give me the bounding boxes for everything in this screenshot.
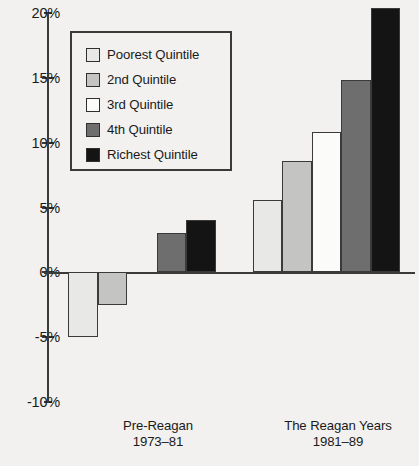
- bar-pre-reagan-5: [186, 220, 216, 272]
- legend-item-3: 3rd Quintile: [86, 92, 230, 117]
- category-label-reagan-years: The Reagan Years1981–89: [268, 418, 408, 450]
- bar-pre-reagan-4: [157, 233, 187, 272]
- legend-item-label: 2nd Quintile: [107, 72, 176, 87]
- bar-pre-reagan-1: [68, 272, 98, 337]
- bar-reagan-years-2: [282, 161, 311, 273]
- category-label-line2: 1981–89: [268, 434, 408, 450]
- category-label-pre-reagan: Pre-Reagan1973–81: [98, 418, 218, 450]
- category-label-line1: The Reagan Years: [268, 418, 408, 434]
- category-label-line2: 1973–81: [98, 434, 218, 450]
- legend-swatch-icon: [86, 73, 100, 87]
- legend-item-label: Poorest Quintile: [107, 47, 199, 62]
- legend-item-2: 2nd Quintile: [86, 67, 230, 92]
- bar-reagan-years-1: [253, 200, 282, 273]
- category-label-line1: Pre-Reagan: [98, 418, 218, 434]
- legend-swatch-icon: [86, 98, 100, 112]
- chart-root: 20%15%10%5%0%-5%-10% Poorest Quintile2nd…: [0, 0, 419, 466]
- legend: Poorest Quintile2nd Quintile3rd Quintile…: [70, 31, 232, 171]
- bar-reagan-years-4: [341, 80, 370, 272]
- bar-pre-reagan-2: [98, 272, 128, 304]
- bar-reagan-years-3: [312, 132, 341, 272]
- legend-item-label: Richest Quintile: [107, 147, 198, 162]
- legend-item-4: 4th Quintile: [86, 117, 230, 142]
- legend-swatch-icon: [86, 148, 100, 162]
- legend-swatch-icon: [86, 123, 100, 137]
- legend-item-label: 4th Quintile: [107, 122, 173, 137]
- legend-item-5: Richest Quintile: [86, 142, 230, 167]
- legend-item-label: 3rd Quintile: [107, 97, 173, 112]
- legend-item-1: Poorest Quintile: [86, 42, 230, 67]
- legend-swatch-icon: [86, 48, 100, 62]
- bar-reagan-years-5: [371, 8, 400, 273]
